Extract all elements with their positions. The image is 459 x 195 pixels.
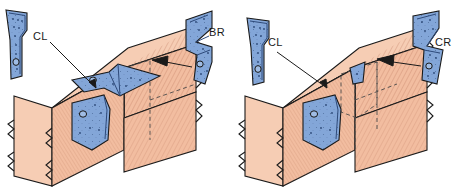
illustration-canvas: CL BR CL CR — [0, 0, 459, 195]
post-left-face — [14, 96, 52, 186]
label-cr: CR — [435, 36, 452, 48]
bracket-large-hole — [426, 63, 432, 69]
bracket-large-hole — [197, 61, 203, 67]
label-cl-right: CL — [268, 36, 283, 48]
installed-cr-hole — [356, 73, 358, 75]
installed-cl-bracket-right-panel — [303, 95, 341, 150]
installed-bracket-large-hole — [79, 111, 86, 117]
bracket-large-hole — [13, 59, 19, 66]
label-br: BR — [209, 26, 225, 38]
installed-bracket-texture — [72, 95, 110, 150]
post-left-face — [245, 96, 283, 186]
installed-cl-bracket-left-panel — [72, 95, 110, 150]
connector-bracket-figure: CL BR CL CR — [0, 0, 459, 195]
bracket-large-hole — [255, 66, 261, 73]
label-cl-left: CL — [33, 30, 48, 42]
installed-bracket-texture — [303, 95, 341, 150]
installed-bracket-large-hole — [310, 111, 317, 117]
